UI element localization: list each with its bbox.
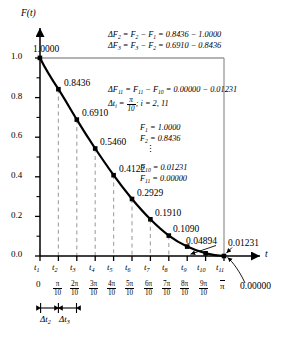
x-value-label-9: 8π10 xyxy=(180,278,189,297)
point-label-8: 0.1090 xyxy=(173,224,199,234)
x-index-label-10: t10 xyxy=(197,262,206,273)
x-index-label-1: t1 xyxy=(34,262,40,273)
x-value-label-11: π xyxy=(220,280,225,291)
point-label-9: 0.04894 xyxy=(186,236,217,246)
point-label-11: 0.00000 xyxy=(240,281,271,291)
point-label-2: 0.8436 xyxy=(64,78,90,88)
x-value-label-1: 0 xyxy=(36,279,41,289)
y-tick-label-0.2: 0.2 xyxy=(11,210,22,220)
y-tick-label-0.0: 0.0 xyxy=(11,249,22,259)
x-index-label-2: t2 xyxy=(52,262,58,273)
point-label-4: 0.5460 xyxy=(100,137,126,147)
bracket-label-dt2: Δt2 xyxy=(40,314,51,325)
x-index-label-6: t6 xyxy=(125,262,131,273)
x-value-label-7: 6π10 xyxy=(144,278,153,297)
x-index-label-11: t11 xyxy=(216,262,224,273)
x-index-label-5: t5 xyxy=(107,262,113,273)
x-index-label-8: t8 xyxy=(162,262,168,273)
bracket-label-dt3: Δt3 xyxy=(59,314,70,325)
point-label-3: 0.6910 xyxy=(82,108,108,118)
y-tick-label-1.0: 1.0 xyxy=(11,51,22,61)
x-value-label-2: π10 xyxy=(53,278,62,297)
x-index-label-9: t9 xyxy=(181,262,187,273)
x-value-label-8: 7π10 xyxy=(162,278,171,297)
y-tick-label-0.6: 0.6 xyxy=(11,130,22,140)
point-label-7: 0.1910 xyxy=(155,208,181,218)
point-label-10: 0.01231 xyxy=(228,238,259,248)
x-value-label-5: 4π10 xyxy=(107,278,116,297)
x-value-label-10: 9π10 xyxy=(199,278,208,297)
annotation-delta-ti: Δti = π10; i = 2, 11 xyxy=(108,96,169,113)
x-index-label-7: t7 xyxy=(144,262,150,273)
x-index-label-4: t4 xyxy=(89,262,95,273)
y-axis-title: F(t) xyxy=(21,8,36,18)
annotation-vertical-dots: ⋮ xyxy=(146,144,155,154)
y-tick-label-0.4: 0.4 xyxy=(11,170,22,180)
annotation-f11: F11 = 0.00000 xyxy=(140,174,187,186)
interval-brackets xyxy=(41,303,77,313)
annotation-delta-f3: ΔF3 = F3 − F2 = 0.6910 − 0.8436 xyxy=(108,41,221,53)
x-index-label-3: t3 xyxy=(70,262,76,273)
y-tick-label-0.8: 0.8 xyxy=(11,91,22,101)
point-label-6: 0.2929 xyxy=(137,188,163,198)
x-value-label-6: 5π10 xyxy=(125,278,134,297)
x-value-label-3: 2π10 xyxy=(70,278,79,297)
figure-container: F(t) t 1.0 0.8 0.6 0.4 0.2 0.0 1.0000 0.… xyxy=(0,0,303,341)
x-axis-title: t xyxy=(265,249,268,259)
x-value-label-4: 3π10 xyxy=(89,278,98,297)
fraction-pi-10: π10 xyxy=(127,96,136,113)
point-label-1: 1.0000 xyxy=(33,44,59,54)
